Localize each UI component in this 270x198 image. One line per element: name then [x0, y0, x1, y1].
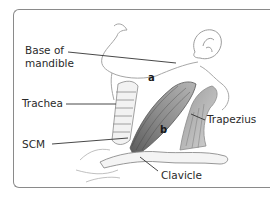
label-base-of-mandible-line1: Base of — [25, 44, 64, 57]
clavicle-illustration — [100, 151, 228, 168]
label-trachea: Trachea — [22, 97, 63, 110]
trachea-illustration — [112, 81, 138, 144]
ear-illustration — [194, 30, 222, 59]
leader-line-base-of-mandible — [68, 52, 176, 63]
region-marker-a: a — [148, 72, 155, 83]
label-base-of-mandible-line2: mandible — [25, 57, 74, 70]
region-marker-b: b — [160, 124, 167, 135]
label-scm: SCM — [22, 138, 45, 151]
label-clavicle: Clavicle — [161, 169, 202, 182]
label-trapezius: Trapezius — [207, 113, 256, 126]
